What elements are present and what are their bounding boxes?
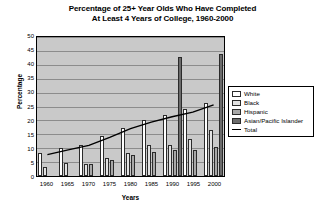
bar-black-2000	[209, 130, 213, 176]
y-tick-5: 5	[14, 160, 34, 166]
legend-label-line: Total	[244, 126, 257, 133]
y-axis-tick-labels: 05101520253035404550	[14, 30, 34, 183]
bar-group-1965	[58, 37, 79, 176]
bar-group-2000	[203, 37, 224, 176]
bar-group-1960	[37, 37, 58, 176]
y-tick-50: 50	[14, 33, 34, 39]
bar-group-1980	[120, 37, 141, 176]
plot-area	[36, 36, 225, 177]
x-tick-1980: 1980	[120, 181, 141, 187]
bar-black-1995	[188, 139, 192, 176]
bar-hisp-1985	[152, 152, 156, 176]
legend-swatch-white-icon	[232, 91, 241, 97]
x-tick-1990: 1990	[162, 181, 183, 187]
legend-swatch-hisp-icon	[232, 109, 241, 115]
legend-label-asian: Asian/Pacific Islander	[244, 117, 303, 124]
bar-white-1985	[142, 120, 146, 176]
bar-group-1970	[79, 37, 100, 176]
chart-title: Percentage of 25+ Year Olds Who Have Com…	[0, 4, 325, 24]
x-tick-1995: 1995	[183, 181, 204, 187]
bar-groups	[37, 37, 224, 176]
bar-white-1990	[163, 115, 167, 176]
bar-hisp-1970	[89, 164, 93, 177]
bar-group-1985	[141, 37, 162, 176]
chart-title-line-2: At Least 4 Years of College, 1960-2000	[0, 14, 325, 24]
legend-label-black: Black	[244, 99, 259, 106]
x-tick-1975: 1975	[99, 181, 120, 187]
bar-white-1975	[100, 136, 104, 176]
bar-asian-1990	[178, 57, 182, 176]
bar-hisp-1990	[173, 150, 177, 176]
legend-label-white: White	[244, 90, 260, 97]
bar-white-2000	[204, 103, 208, 176]
x-tick-2000: 2000	[204, 181, 225, 187]
bar-white-1965	[59, 148, 63, 176]
legend-item-hisp[interactable]: Hispanic	[232, 107, 311, 116]
legend-item-line[interactable]: Total	[232, 125, 311, 134]
chart-legend: WhiteBlackHispanicAsian/Pacific Islander…	[228, 86, 314, 137]
chart-title-line-1: Percentage of 25+ Year Olds Who Have Com…	[0, 4, 325, 14]
legend-item-black[interactable]: Black	[232, 98, 311, 107]
chart-container: Percentage of 25+ Year Olds Who Have Com…	[0, 0, 325, 212]
legend-swatch-asian-icon	[232, 118, 241, 124]
bar-group-1995	[182, 37, 203, 176]
y-tick-40: 40	[14, 61, 34, 67]
bar-black-1975	[105, 158, 109, 176]
x-axis-tick-labels: 196019651970197519801985199019952000	[36, 181, 225, 187]
bar-white-1980	[121, 128, 125, 176]
bar-hisp-2000	[214, 147, 218, 176]
bar-white-1995	[183, 109, 187, 176]
x-tick-1960: 1960	[36, 181, 57, 187]
y-tick-30: 30	[14, 89, 34, 95]
bar-black-1960	[43, 167, 47, 176]
bar-white-1970	[79, 145, 83, 176]
bar-hisp-1995	[193, 150, 197, 176]
legend-swatch-black-icon	[232, 100, 241, 106]
bar-black-1985	[147, 145, 151, 176]
legend-item-asian[interactable]: Asian/Pacific Islander	[232, 116, 311, 125]
y-tick-20: 20	[14, 118, 34, 124]
bar-white-1960	[38, 153, 42, 176]
y-tick-25: 25	[14, 104, 34, 110]
x-tick-1985: 1985	[141, 181, 162, 187]
bar-black-1990	[168, 145, 172, 176]
bar-hisp-1975	[110, 160, 114, 176]
bar-hisp-1980	[131, 155, 135, 176]
x-tick-1965: 1965	[57, 181, 78, 187]
y-tick-10: 10	[14, 146, 34, 152]
bar-black-1980	[126, 153, 130, 176]
x-axis-title: Years	[36, 194, 225, 201]
bar-asian-2000	[219, 54, 223, 176]
y-tick-35: 35	[14, 75, 34, 81]
y-tick-15: 15	[14, 132, 34, 138]
y-tick-0: 0	[14, 174, 34, 180]
bar-black-1965	[64, 163, 68, 176]
legend-item-white[interactable]: White	[232, 89, 311, 98]
x-tick-1970: 1970	[78, 181, 99, 187]
legend-swatch-line-icon	[232, 127, 241, 133]
bar-group-1975	[99, 37, 120, 176]
bar-group-1990	[162, 37, 183, 176]
y-tick-45: 45	[14, 47, 34, 53]
legend-label-hisp: Hispanic	[244, 108, 268, 115]
bar-black-1970	[84, 164, 88, 176]
